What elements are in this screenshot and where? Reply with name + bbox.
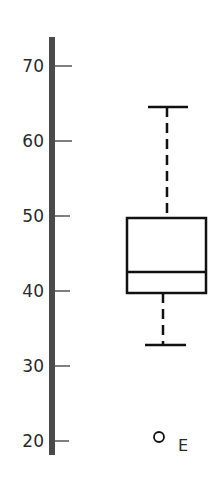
tick-label-30: 30 (14, 356, 44, 376)
tick-label-70: 70 (14, 56, 44, 76)
iqr-box (127, 218, 206, 293)
tick-label-50: 50 (14, 206, 44, 226)
outlier-point (154, 432, 164, 442)
y-axis-bar (49, 37, 55, 455)
y-axis-ticks (55, 66, 72, 441)
tick-label-60: 60 (14, 131, 44, 151)
tick-label-20: 20 (14, 431, 44, 451)
box-plot-chart: 70 60 50 40 30 20 E (0, 0, 215, 494)
box-element (127, 107, 206, 442)
tick-label-40: 40 (14, 281, 44, 301)
outlier-label: E (178, 437, 188, 455)
